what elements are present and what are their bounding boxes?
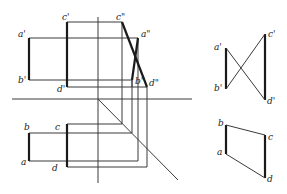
- answer-label-b-side: b': [214, 83, 222, 93]
- answer-label-a-top: a: [217, 147, 222, 157]
- label-b-side: b": [135, 76, 145, 86]
- label-c-front: c': [62, 12, 70, 22]
- answer-label-a-side: a': [214, 42, 222, 52]
- label-a-top: a: [21, 157, 26, 167]
- answer-side-edge-bc: [226, 34, 265, 89]
- label-b-front: b': [18, 75, 26, 85]
- label-d-front: d': [57, 84, 65, 94]
- answer-top-edge-bc: [226, 125, 265, 135]
- answer-label-d-side: d': [267, 96, 275, 106]
- label-b-top: b: [24, 122, 30, 132]
- label-a-side: a": [141, 29, 151, 39]
- answer-label-c-side: c': [268, 29, 276, 39]
- answer-label-b-top: b: [218, 118, 224, 128]
- answer-top-edge-ad: [226, 154, 265, 178]
- label-d-side: d": [149, 78, 159, 88]
- label-a-front: a': [18, 29, 26, 39]
- answer-label-c-top: c: [268, 132, 273, 142]
- answer-label-d-top: d: [267, 174, 273, 184]
- projection-diagram: a' b' c' d' c" a" b" d" b a c d a' b' c'…: [0, 0, 287, 194]
- label-c-top: c: [55, 122, 60, 132]
- label-c-side: c": [116, 12, 125, 22]
- label-d-top: d: [52, 163, 58, 173]
- answer-side-edge-ad: [226, 48, 265, 100]
